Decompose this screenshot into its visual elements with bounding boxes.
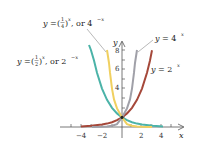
svg-text:2: 2 bbox=[35, 61, 38, 67]
svg-text:4: 4 bbox=[61, 23, 64, 29]
x-tick-m4: −4 bbox=[76, 132, 87, 140]
svg-text:y: y bbox=[42, 19, 48, 28]
svg-text:, or 4: , or 4 bbox=[71, 19, 92, 28]
x-tick-4: 4 bbox=[159, 132, 164, 140]
curve-quarter-pow-x bbox=[107, 50, 152, 127]
y-tick-8: 8 bbox=[115, 47, 119, 55]
svg-text:1: 1 bbox=[35, 54, 38, 60]
leader-four bbox=[138, 40, 153, 52]
y-tick-6: 6 bbox=[115, 65, 120, 73]
label-quarter: y = ( 1 4 ) x , or 4 −x bbox=[42, 16, 104, 29]
svg-text:=: = bbox=[24, 57, 31, 66]
svg-text:−x: −x bbox=[71, 54, 78, 60]
svg-text:= 4: = 4 bbox=[162, 34, 176, 43]
label-four: y = 4 x bbox=[154, 31, 184, 43]
svg-text:y: y bbox=[150, 65, 156, 74]
svg-text:y: y bbox=[16, 57, 22, 66]
svg-text:=: = bbox=[50, 19, 57, 28]
svg-text:y: y bbox=[154, 34, 160, 43]
svg-text:(: ( bbox=[57, 19, 60, 28]
y-tick-4: 4 bbox=[115, 84, 120, 92]
x-tick-2: 2 bbox=[139, 132, 143, 140]
exponential-chart: −4 −2 2 4 4 6 8 x y y = ( 1 4 ) x , or 4… bbox=[0, 0, 199, 151]
svg-text:1: 1 bbox=[61, 16, 64, 22]
intersection-point bbox=[120, 116, 123, 119]
label-two: y = 2 x bbox=[150, 62, 180, 74]
svg-text:x: x bbox=[181, 31, 184, 37]
svg-text:(: ( bbox=[31, 57, 34, 66]
svg-text:−x: −x bbox=[97, 16, 104, 22]
x-tick-m2: −2 bbox=[97, 132, 107, 140]
y-axis bbox=[119, 41, 125, 138]
svg-text:= 2: = 2 bbox=[158, 65, 172, 74]
x-axis-label: x bbox=[179, 131, 184, 140]
y-axis-label: y bbox=[112, 38, 118, 47]
svg-text:, or 2: , or 2 bbox=[45, 57, 66, 66]
svg-text:x: x bbox=[177, 62, 180, 68]
label-half: y = ( 1 2 ) x , or 2 −x bbox=[16, 54, 78, 67]
